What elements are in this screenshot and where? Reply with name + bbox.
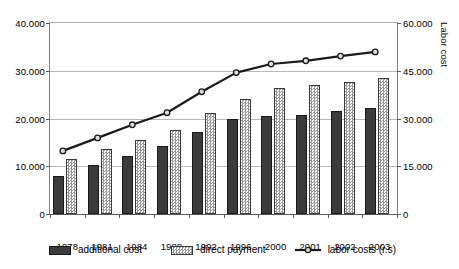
right-axis-tickmark xyxy=(397,23,401,24)
category-tickmark xyxy=(189,214,190,218)
bar-additional-cost xyxy=(261,116,272,214)
bar-direct-payment xyxy=(240,99,251,214)
legend-label-direct-payment: direct payment xyxy=(200,245,266,255)
bar-group xyxy=(189,23,224,214)
bar-additional-cost xyxy=(227,119,238,214)
bar-group xyxy=(85,23,120,214)
category-tickmark xyxy=(293,214,294,218)
bar-direct-payment xyxy=(309,85,320,214)
bar-group xyxy=(154,23,189,214)
filled-square-icon xyxy=(49,246,71,255)
bar-group xyxy=(258,23,293,214)
right-axis-tickmark xyxy=(397,166,401,167)
category-tickmark xyxy=(258,214,259,218)
right-axis-tickmark xyxy=(397,71,401,72)
legend-item-additional-cost: additional cost xyxy=(49,245,142,255)
bar-direct-payment xyxy=(344,82,355,214)
category-tickmark xyxy=(328,214,329,218)
left-axis-tick-label: 20.000 xyxy=(15,113,45,124)
chart-legend: additional cost direct payment labor cos… xyxy=(49,240,396,260)
legend-label-labor-costs: labor costs (r.s) xyxy=(328,245,396,255)
legend-item-direct-payment: direct payment xyxy=(171,245,266,255)
bars-layer xyxy=(50,23,397,214)
bar-direct-payment xyxy=(170,130,181,214)
chart-container: Labor cost 010.00020.00030.00040.000 015… xyxy=(0,0,459,269)
bar-additional-cost xyxy=(53,176,64,214)
category-tickmark xyxy=(154,214,155,218)
bar-additional-cost xyxy=(296,115,307,214)
legend-item-labor-costs: labor costs (r.s) xyxy=(295,245,396,255)
left-axis-tick-label: 0 xyxy=(40,209,45,220)
bar-direct-payment xyxy=(66,159,77,214)
bar-group xyxy=(224,23,259,214)
bar-additional-cost xyxy=(157,146,168,214)
bar-direct-payment xyxy=(135,140,146,214)
left-axis-tick-label: 10.000 xyxy=(15,161,45,172)
bar-group xyxy=(293,23,328,214)
category-tickmark xyxy=(50,214,51,218)
bar-group xyxy=(328,23,363,214)
checkered-square-icon xyxy=(171,246,193,255)
bar-group xyxy=(362,23,397,214)
left-axis-tick-label: 30.000 xyxy=(15,65,45,76)
right-axis-tick-label: 60.000 xyxy=(403,18,433,29)
right-axis-tick-label: 15.000 xyxy=(403,161,433,172)
category-tickmark xyxy=(119,214,120,218)
bar-additional-cost xyxy=(365,108,376,214)
category-tickmark xyxy=(397,214,398,218)
category-tickmark xyxy=(224,214,225,218)
right-axis-tick-label: 30.000 xyxy=(403,113,433,124)
bar-group xyxy=(119,23,154,214)
legend-label-additional-cost: additional cost xyxy=(78,245,142,255)
right-axis-tick-label: 0 xyxy=(403,209,408,220)
right-axis-tickmark xyxy=(397,119,401,120)
bar-direct-payment xyxy=(274,88,285,214)
line-with-circle-icon xyxy=(295,245,321,255)
bar-additional-cost xyxy=(192,132,203,214)
category-tickmark xyxy=(85,214,86,218)
plot-area: 010.00020.00030.00040.000 015.00030.0004… xyxy=(49,22,398,215)
left-axis-tick-label: 40.000 xyxy=(15,18,45,29)
right-axis-title: Labor cost xyxy=(436,22,450,142)
bar-direct-payment xyxy=(101,149,112,214)
bar-direct-payment xyxy=(378,78,389,214)
category-tickmark xyxy=(362,214,363,218)
bar-group xyxy=(50,23,85,214)
bar-direct-payment xyxy=(205,113,216,214)
bar-additional-cost xyxy=(88,165,99,214)
bar-additional-cost xyxy=(122,156,133,214)
right-axis-tick-label: 45.000 xyxy=(403,65,433,76)
bar-additional-cost xyxy=(331,111,342,214)
